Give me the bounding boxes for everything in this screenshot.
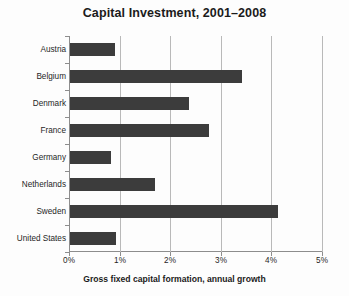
gridline-3% [221, 36, 222, 252]
x-label-5%: 5% [302, 256, 342, 265]
x-label-2%: 2% [150, 256, 190, 265]
x-label-4%: 4% [251, 256, 291, 265]
bar-france [70, 124, 209, 137]
x-label-3%: 3% [201, 256, 241, 265]
bar-chart: Capital Investment, 2001–2008 AustriaBel… [0, 0, 349, 296]
bar-belgium [70, 70, 242, 83]
x-axis-line [69, 251, 322, 252]
x-label-0%: 0% [49, 256, 89, 265]
gridline-4% [271, 36, 272, 252]
x-axis-title: Gross fixed capital formation, annual gr… [0, 274, 349, 284]
y-label-denmark: Denmark [0, 99, 66, 108]
y-tick [65, 90, 69, 91]
gridline-2% [170, 36, 171, 252]
gridline-5% [322, 36, 323, 252]
y-axis-line [69, 36, 70, 252]
y-tick [65, 198, 69, 199]
y-label-austria: Austria [0, 45, 66, 54]
y-label-belgium: Belgium [0, 72, 66, 81]
x-label-1%: 1% [100, 256, 140, 265]
gridline-1% [120, 36, 121, 252]
bar-sweden [70, 205, 278, 218]
bar-austria [70, 43, 115, 56]
y-tick [65, 144, 69, 145]
y-tick [65, 117, 69, 118]
plot-area [69, 36, 322, 252]
y-tick [65, 63, 69, 64]
bar-denmark [70, 97, 189, 110]
chart-title: Capital Investment, 2001–2008 [0, 6, 349, 20]
y-label-sweden: Sweden [0, 207, 66, 216]
y-label-france: France [0, 126, 66, 135]
bar-netherlands [70, 178, 155, 191]
y-label-netherlands: Netherlands [0, 180, 66, 189]
y-tick [65, 171, 69, 172]
y-label-united-states: United States [0, 234, 66, 243]
y-tick [65, 36, 69, 37]
bar-united-states [70, 232, 116, 245]
y-label-germany: Germany [0, 153, 66, 162]
bar-germany [70, 151, 111, 164]
y-tick [65, 225, 69, 226]
